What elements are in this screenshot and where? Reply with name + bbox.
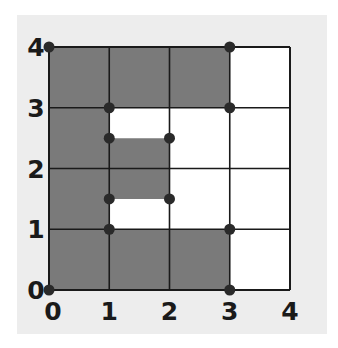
vertex-dot xyxy=(44,285,55,296)
y-tick-label: 0 xyxy=(27,276,44,305)
vertex-dot xyxy=(224,102,235,113)
y-axis-tick-labels: 01234 xyxy=(27,33,44,305)
grid-diagram: 01234 01234 xyxy=(0,0,338,348)
vertex-dot xyxy=(104,102,115,113)
vertex-dot xyxy=(164,133,175,144)
y-tick-label: 1 xyxy=(27,215,44,244)
vertex-dot xyxy=(104,133,115,144)
x-tick-label: 4 xyxy=(281,297,298,326)
x-tick-label: 1 xyxy=(101,297,118,326)
vertex-dot xyxy=(44,42,55,53)
x-tick-label: 0 xyxy=(44,297,61,326)
vertex-dot xyxy=(104,193,115,204)
vertex-dot xyxy=(164,193,175,204)
vertex-dot xyxy=(224,42,235,53)
y-tick-label: 3 xyxy=(27,94,44,123)
y-tick-label: 4 xyxy=(27,33,44,62)
vertex-dot xyxy=(224,285,235,296)
vertex-dot xyxy=(104,224,115,235)
y-tick-label: 2 xyxy=(27,155,44,184)
x-axis-tick-labels: 01234 xyxy=(44,297,298,326)
x-tick-label: 3 xyxy=(221,297,238,326)
vertex-dot xyxy=(224,224,235,235)
x-tick-label: 2 xyxy=(161,297,178,326)
